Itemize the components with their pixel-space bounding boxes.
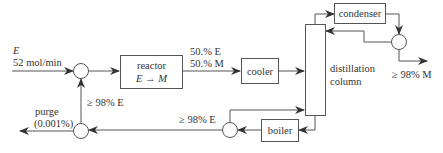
product-label-text: ≥ 98% M	[392, 69, 432, 80]
column-to-boiler-arrow	[299, 116, 315, 130]
reactor-label: reactor	[137, 59, 166, 72]
feed-rate: 52 mol/min	[13, 57, 62, 68]
feed-species: E	[13, 45, 19, 56]
mixer-node	[74, 64, 89, 79]
outlet-line1: 50.% E	[190, 46, 221, 57]
boiler-label: boiler	[268, 124, 293, 137]
cooler-label: cooler	[247, 65, 273, 78]
outlet-line2: 50.% M	[190, 58, 224, 69]
column-label-line1: distillation	[330, 63, 375, 74]
boiler-splitter-node	[223, 123, 238, 138]
column-to-condenser-arrow	[315, 14, 334, 24]
reflux-arrow	[326, 31, 392, 42]
condenser-to-splitter-arrow	[385, 14, 399, 34]
column-label-line2: column	[330, 76, 362, 87]
condenser-label: condenser	[339, 7, 382, 20]
boiler-box: boiler	[261, 119, 299, 142]
bottoms-label: ≥ 98% E	[179, 114, 216, 126]
recycle-label: ≥ 98% E	[87, 97, 124, 109]
product-arrow	[399, 49, 427, 61]
purge-label-line2: (0.001%)	[34, 118, 73, 129]
column-label: distillation column	[330, 62, 375, 88]
recycle-label-text: ≥ 98% E	[87, 97, 124, 108]
purge-label-line1: purge	[34, 106, 59, 117]
product-label: ≥ 98% M	[392, 69, 432, 81]
distillation-column-box	[305, 24, 326, 116]
purge-splitter-node	[74, 124, 89, 139]
condenser-box: condenser	[334, 3, 386, 24]
condenser-splitter-node	[392, 35, 407, 50]
cooler-box: cooler	[241, 58, 279, 84]
reactor-outlet-label: 50.% E 50.% M	[190, 46, 224, 70]
reactor-box: reactor E → M	[120, 55, 183, 89]
reactor-reaction: E → M	[136, 72, 167, 85]
bottoms-label-text: ≥ 98% E	[179, 114, 216, 125]
purge-label: purge (0.001%)	[34, 106, 73, 130]
feed-label: E 52 mol/min	[13, 45, 62, 69]
